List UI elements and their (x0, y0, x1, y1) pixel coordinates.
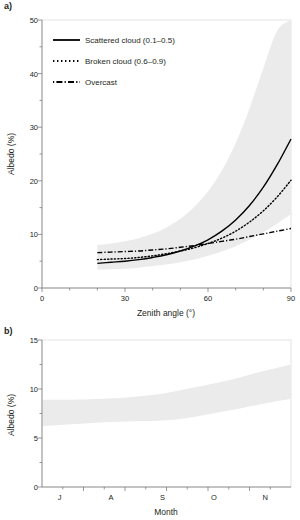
panel-a-legend: Scattered cloud (0.1–0.5) Broken cloud (… (53, 36, 175, 87)
figure-svg: 0 10 20 30 40 50 0 30 60 90 Albedo (%) Z… (0, 0, 300, 520)
legend-label-overcast: Overcast (85, 78, 118, 87)
panel-b-x-tick-labels: J A S O N (58, 493, 268, 502)
panel-a-y-axis-title: Albedo (%) (6, 133, 16, 175)
panel-a-xtick-90: 90 (287, 294, 295, 303)
panel-b-xtick-o: O (211, 493, 217, 502)
panel-b-y-axis-title: Albedo (%) (6, 394, 16, 436)
panel-a-ytick-40: 40 (30, 70, 38, 79)
panel-b-xtick-s: S (160, 493, 165, 502)
panel-a-ytick-30: 30 (30, 123, 38, 132)
panel-b-uncertainty-band (42, 365, 291, 427)
panel-a-xtick-60: 60 (204, 294, 212, 303)
legend-label-broken-cloud: Broken cloud (0.6–0.9) (85, 57, 166, 66)
panel-b-ytick-10: 10 (30, 385, 38, 394)
panel-b-x-axis-title: Month (154, 507, 178, 517)
panel-b-y-tick-labels: 0 5 10 15 (30, 336, 38, 492)
panel-a-ytick-50: 50 (30, 16, 38, 25)
panel-a-xtick-30: 30 (121, 294, 129, 303)
panel-b-xtick-j: J (58, 493, 62, 502)
panel-b-xtick-a: A (108, 493, 113, 502)
panel-b-xtick-n: N (262, 493, 267, 502)
panel-a-ytick-0: 0 (34, 284, 38, 293)
panel-a-tag: a) (4, 1, 12, 11)
legend-item-broken-cloud: Broken cloud (0.6–0.9) (53, 57, 166, 66)
panel-b-ytick-15: 15 (30, 336, 38, 345)
legend-label-scattered-cloud: Scattered cloud (0.1–0.5) (85, 36, 175, 45)
panel-b-tag: b) (4, 326, 13, 336)
legend-item-scattered-cloud: Scattered cloud (0.1–0.5) (53, 36, 175, 45)
legend-item-overcast: Overcast (53, 78, 118, 87)
figure-container: a) b) 0 10 20 30 40 50 (0, 0, 300, 520)
panel-a-ytick-10: 10 (30, 230, 38, 239)
panel-a-ytick-20: 20 (30, 177, 38, 186)
panel-a-x-tick-labels: 0 30 60 90 (40, 294, 295, 303)
panel-a-x-axis-title: Zenith angle (°) (137, 308, 195, 318)
panel-a-y-tick-labels: 0 10 20 30 40 50 (30, 16, 38, 293)
panel-a-xtick-0: 0 (40, 294, 44, 303)
panel-b-ytick-5: 5 (34, 434, 38, 443)
panel-b: 0 5 10 15 J A S O N Albedo (%) Month (6, 336, 291, 517)
panel-b-ytick-0: 0 (34, 483, 38, 492)
panel-a: 0 10 20 30 40 50 0 30 60 90 Albedo (%) Z… (6, 16, 295, 318)
